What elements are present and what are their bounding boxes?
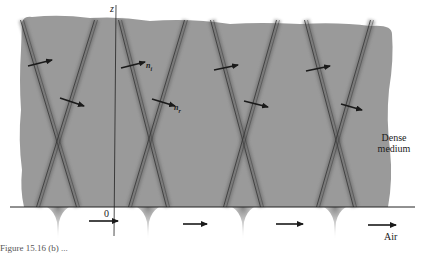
incident-normal-label: ni [146, 62, 152, 72]
dense-medium-line2: medium [372, 143, 416, 154]
air-label: Air [384, 232, 397, 242]
ni-subscript: i [150, 66, 152, 72]
evanescent-wave-drip [137, 207, 159, 240]
nr-subscript: r [178, 108, 180, 114]
evanescent-wave-drip [47, 207, 69, 240]
evanescent-wave-figure: z 0 ni nr Dense medium Air Figure 15.16 … [0, 0, 425, 253]
reflected-normal-label: nr [174, 104, 181, 114]
figure-caption: Figure 15.16 (b) ... [0, 244, 68, 253]
dense-medium-line1: Dense [372, 132, 416, 143]
z-axis-label: z [110, 4, 114, 14]
dense-medium-region [20, 16, 393, 207]
diagram-canvas [0, 0, 425, 253]
dense-medium-label: Dense medium [372, 132, 416, 154]
evanescent-wave-drip [232, 207, 254, 240]
evanescent-wave-drip [324, 207, 346, 240]
origin-label: 0 [104, 209, 109, 219]
